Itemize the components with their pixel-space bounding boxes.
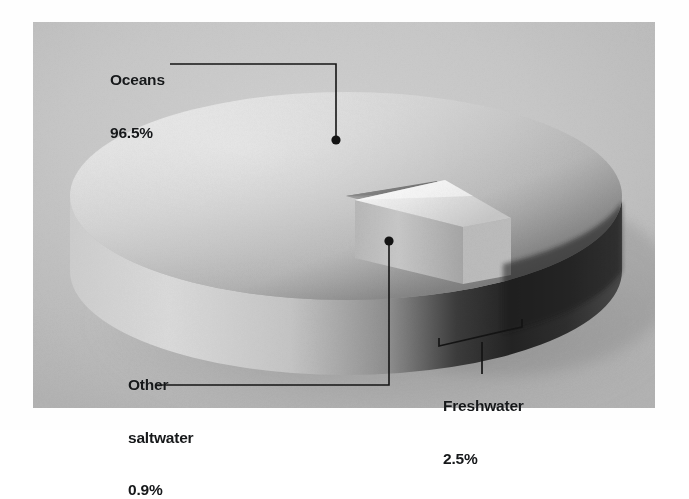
label-oceans: Oceans 96.5% [110,36,165,176]
label-oceans-value: 96.5% [110,124,165,142]
label-other-saltwater: Other saltwater 0.9% [128,341,193,499]
label-oceans-name: Oceans [110,71,165,89]
label-freshwater: Freshwater 2.5% [443,362,524,499]
label-other-saltwater-line2: saltwater [128,429,193,447]
label-other-saltwater-value: 0.9% [128,481,193,499]
label-freshwater-value: 2.5% [443,450,524,468]
label-freshwater-name: Freshwater [443,397,524,415]
label-other-saltwater-line1: Other [128,376,193,394]
